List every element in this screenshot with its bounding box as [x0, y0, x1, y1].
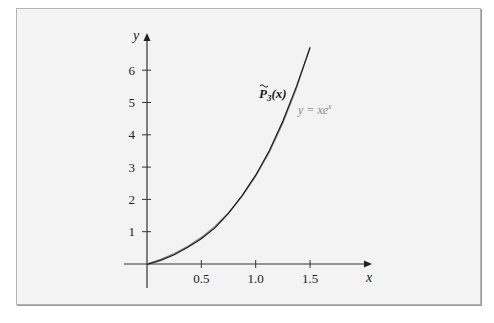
y-tick-label: 3 — [129, 160, 136, 175]
p3-label-tail: (x) — [271, 86, 286, 101]
x-tick-label: 0.5 — [193, 271, 209, 286]
curve-label-xex: y = xex — [297, 102, 332, 117]
svg-text:P3(x): P3(x) — [259, 86, 287, 103]
x-axis-label: x — [365, 270, 373, 285]
curve-label-p3: P3(x) — [259, 85, 287, 103]
xex-label-main: y = xe — [297, 103, 329, 117]
chart-plot: 0.51.01.5 123456 x y P3(x) y = xex — [0, 0, 494, 323]
y-ticks: 123456 — [129, 63, 152, 240]
y-tick-label: 1 — [129, 224, 136, 239]
y-tick-label: 2 — [129, 192, 136, 207]
y-tick-label: 6 — [129, 63, 136, 78]
y-axis-label: y — [131, 28, 140, 43]
curve-p3 — [147, 48, 310, 265]
axes — [124, 35, 370, 288]
x-tick-label: 1.5 — [302, 271, 318, 286]
y-tick-label: 5 — [129, 95, 136, 110]
y-tick-label: 4 — [129, 127, 136, 142]
x-tick-label: 1.0 — [248, 271, 264, 286]
xex-label-sup: x — [327, 102, 332, 111]
curve-xex — [147, 47, 310, 264]
